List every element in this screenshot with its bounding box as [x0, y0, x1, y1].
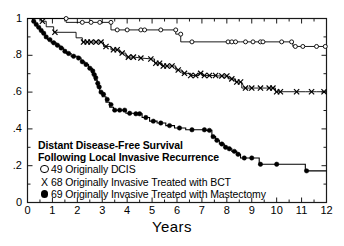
open-circle-icon [38, 163, 51, 175]
y-tick-label: .6 [4, 85, 22, 97]
legend-label-mastectomy: 69 Originally Invasive Treated with Mast… [51, 188, 266, 200]
legend-title-line1: Distant Disease-Free Survival [38, 140, 308, 152]
legend-title-line2: Following Local Invasive Recurrence [38, 152, 308, 164]
y-tick-label: .2 [4, 159, 22, 171]
x-tick-label: 7 [192, 204, 212, 216]
legend-entry-mastectomy: 69 Originally Invasive Treated with Mast… [38, 188, 308, 200]
x-tick-label: 8 [217, 204, 237, 216]
legend-label-dcis: 49 Originally DCIS [51, 163, 136, 175]
x-tick-label: 0 [18, 204, 38, 216]
survival-chart-figure: 0.2.4.6.81 0123456789101112 Years Distan… [0, 0, 344, 246]
chart-legend: Distant Disease-Free Survival Following … [38, 140, 308, 200]
legend-entry-bct: X 68 Originally Invasive Treated with BC… [38, 176, 308, 188]
x-tick-label: 10 [267, 204, 287, 216]
y-tick-label: 1 [4, 12, 22, 24]
x-tick-label: 3 [92, 204, 112, 216]
x-tick-label: 4 [117, 204, 137, 216]
legend-label-bct: 68 Originally Invasive Treated with BCT [51, 176, 231, 188]
x-tick-label: 12 [317, 204, 337, 216]
x-tick-label: 9 [242, 204, 262, 216]
x-axis-title: Years [0, 218, 344, 235]
x-tick-label: 2 [67, 204, 87, 216]
y-tick-label: .8 [4, 48, 22, 60]
filled-circle-icon [38, 188, 51, 200]
x-tick-label: 11 [292, 204, 312, 216]
x-marker-icon: X [38, 176, 51, 188]
legend-entry-dcis: 49 Originally DCIS [38, 163, 308, 175]
x-tick-label: 6 [167, 204, 187, 216]
x-tick-label: 5 [142, 204, 162, 216]
x-tick-label: 1 [42, 204, 62, 216]
y-tick-label: .4 [4, 122, 22, 134]
